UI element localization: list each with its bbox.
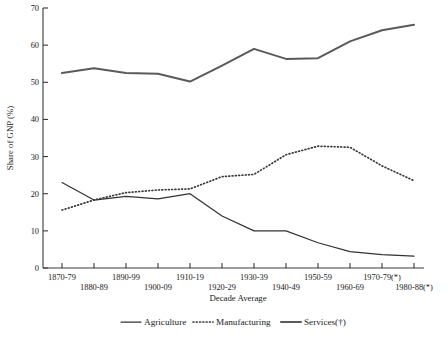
series-line-agriculture — [62, 183, 414, 257]
x-tick-label: 1980-88(*) — [395, 283, 433, 292]
y-tick-label: 40 — [31, 115, 39, 124]
y-tick-label: 70 — [31, 4, 39, 13]
x-tick-label: 1910-19 — [176, 273, 204, 282]
x-tick-label: 1870-79 — [48, 273, 76, 282]
x-tick-label: 1900-09 — [144, 283, 172, 292]
x-tick-label: 1950-59 — [304, 273, 332, 282]
chart-legend: AgricultureManufacturingServices(†) — [121, 317, 346, 327]
line-chart-svg: 010203040506070 Share of GNP (%) 1870-79… — [0, 0, 448, 339]
y-tick-label: 0 — [35, 264, 39, 273]
series-line-services — [62, 25, 414, 82]
x-tick-label: 1890-99 — [112, 273, 140, 282]
x-tick-label: 1930-39 — [240, 273, 268, 282]
legend-label: Manufacturing — [216, 317, 271, 327]
y-tick-label: 60 — [31, 41, 39, 50]
x-tick-label: 1960-69 — [336, 283, 364, 292]
legend-label: Agriculture — [144, 317, 186, 327]
y-tick-label: 30 — [31, 153, 39, 162]
x-tick-group: 1870-791880-891890-991900-091910-191920-… — [48, 263, 433, 292]
y-axis-title: Share of GNP (%) — [5, 106, 15, 170]
legend-label: Services(†) — [304, 317, 346, 327]
x-axis: 1870-791880-891890-991900-091910-191920-… — [43, 263, 433, 303]
x-tick-label: 1970-79(*) — [363, 273, 401, 282]
chart-figure: 010203040506070 Share of GNP (%) 1870-79… — [0, 0, 448, 339]
x-tick-label: 1920-29 — [208, 283, 236, 292]
y-axis: 010203040506070 Share of GNP (%) — [5, 4, 48, 273]
x-axis-title: Decade Average — [209, 293, 266, 303]
x-tick-label: 1880-89 — [80, 283, 108, 292]
data-series-group — [62, 25, 414, 256]
x-tick-label: 1940-49 — [272, 283, 300, 292]
y-tick-label: 50 — [31, 78, 39, 87]
y-tick-label: 10 — [31, 227, 39, 236]
y-tick-label: 20 — [31, 190, 39, 199]
series-line-manufacturing — [62, 146, 414, 210]
y-tick-group: 010203040506070 — [31, 4, 48, 273]
